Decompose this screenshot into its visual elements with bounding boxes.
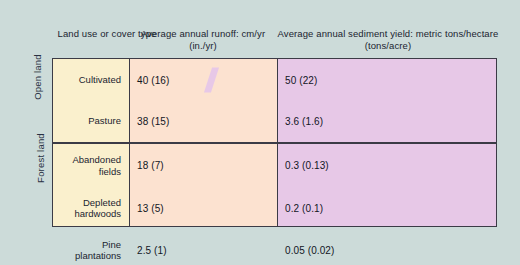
runoff-value: 38 (15) bbox=[137, 116, 169, 127]
sediment-bar-row: 3.6 (1.6) bbox=[278, 111, 323, 132]
sediment-value: 50 (22) bbox=[285, 74, 317, 85]
table-row: Depleted hardwoods bbox=[53, 187, 129, 229]
sediment-value: 0.2 (0.1) bbox=[285, 202, 323, 213]
sediment-bar-row: 0.05 (0.02) bbox=[278, 241, 334, 258]
row-label: Depleted hardwoods bbox=[75, 196, 121, 219]
figure-container: Land use or cover type Average annual ru… bbox=[20, 14, 505, 237]
table-row: 3.6 (1.6) bbox=[278, 100, 496, 142]
runoff-value: 13 (5) bbox=[137, 202, 164, 213]
table-row: Pasture bbox=[53, 100, 129, 142]
table-row: 13 (5) bbox=[130, 187, 277, 229]
table-row: 0.3 (0.13) bbox=[278, 144, 496, 187]
sediment-bar-row: 0.3 (0.13) bbox=[278, 157, 329, 174]
row-label: Abandoned fields bbox=[72, 154, 121, 177]
runoff-bar-row: 38 (15) bbox=[130, 111, 169, 132]
column-header-runoff: Average annual runoff: cm/yr (in./yr) bbox=[128, 28, 278, 51]
table-row: 38 (15) bbox=[130, 100, 277, 142]
runoff-bar-row: 18 (7) bbox=[130, 155, 164, 176]
column-header-sediment: Average annual sediment yield: metric to… bbox=[277, 28, 499, 51]
chart-frame: Cultivated Pasture Abandoned fields Depl… bbox=[52, 58, 497, 227]
runoff-value: 18 (7) bbox=[137, 160, 164, 171]
table-row: 18 (7) bbox=[130, 144, 277, 187]
runoff-bar-row: 2.5 (1) bbox=[130, 239, 167, 260]
runoff-bar-row: 13 (5) bbox=[130, 197, 164, 218]
runoff-value: 2.5 (1) bbox=[137, 244, 167, 255]
group-label-forest-land: Forest land bbox=[35, 125, 47, 191]
runoff-value: 40 (16) bbox=[137, 74, 169, 85]
row-label: Cultivated bbox=[79, 74, 121, 86]
table-row: Cultivated bbox=[53, 59, 129, 100]
table-row: 40 (16) bbox=[130, 59, 277, 100]
sediment-bar-row: 0.2 (0.1) bbox=[278, 199, 323, 216]
sediment-bar-row: 50 (22) bbox=[278, 69, 317, 90]
table-row: Abandoned fields bbox=[53, 144, 129, 187]
table-row: 0.2 (0.1) bbox=[278, 187, 496, 229]
row-label: Pine plantations bbox=[75, 238, 121, 261]
group-label-open-land: Open land bbox=[32, 47, 44, 107]
table-row: 50 (22) bbox=[278, 59, 496, 100]
sediment-value: 0.05 (0.02) bbox=[285, 244, 334, 255]
group-separator bbox=[53, 142, 496, 144]
table-row: 0.05 (0.02) bbox=[278, 229, 496, 265]
table-row: 2.5 (1) bbox=[130, 229, 277, 265]
sediment-value: 3.6 (1.6) bbox=[285, 116, 323, 127]
table-row: Pine plantations bbox=[53, 229, 129, 265]
sediment-value: 0.3 (0.13) bbox=[285, 160, 329, 171]
runoff-bar-row: 40 (16) bbox=[130, 69, 169, 90]
row-label: Pasture bbox=[88, 115, 121, 127]
